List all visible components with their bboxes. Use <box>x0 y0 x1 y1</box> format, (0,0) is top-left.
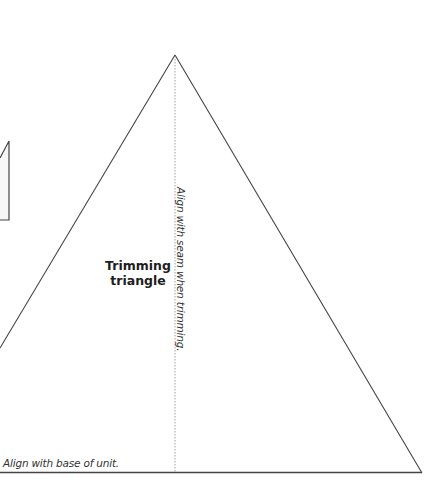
base-guide-label: Align with base of unit. <box>3 457 119 469</box>
template-diagram <box>0 0 444 502</box>
partial-shape-left <box>0 141 9 220</box>
label-line-2: triangle <box>97 273 179 288</box>
triangle-left-edge <box>0 55 175 348</box>
seam-guide-label: Align with seam when trimming. <box>175 187 187 351</box>
trimming-triangle-label: Trimming triangle <box>97 258 179 288</box>
label-line-1: Trimming <box>97 258 179 273</box>
triangle-right-edge <box>175 55 422 473</box>
